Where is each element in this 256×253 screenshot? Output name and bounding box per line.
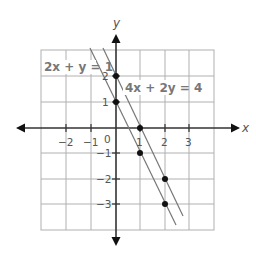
x-tick-label: 3 <box>185 136 192 148</box>
y-tick-label: 1 <box>102 96 109 108</box>
y-axis-up-arrow-icon <box>112 34 121 43</box>
x-axis-left-arrow-icon <box>16 124 25 133</box>
y-tick-label: −1 <box>96 147 111 159</box>
point-0-1 <box>113 99 119 105</box>
point-2-neg3 <box>162 201 168 207</box>
x-axis-right-arrow-icon <box>231 124 240 133</box>
point-1-0 <box>137 125 143 131</box>
y-tick-label: 2 <box>102 70 109 82</box>
y-tick-label: −3 <box>96 198 111 210</box>
x-tick-label: 2 <box>161 136 168 148</box>
y-axis-label: y <box>112 16 121 30</box>
point-0-2 <box>113 73 119 79</box>
origin-label: 0 <box>104 133 111 145</box>
y-tick-label: −2 <box>96 173 111 185</box>
graph-svg: 2x + y = 1 4x + 2y = 4 x y 0 −2 −1 1 2 3… <box>0 0 256 253</box>
point-2-neg2 <box>162 176 168 182</box>
coordinate-plane-figure: 2x + y = 1 4x + 2y = 4 x y 0 −2 −1 1 2 3… <box>0 0 256 253</box>
x-tick-label: 1 <box>136 136 143 148</box>
equation-label-line-2: 4x + 2y = 4 <box>125 81 202 95</box>
x-tick-label: −2 <box>58 136 73 148</box>
x-axis-label: x <box>241 121 250 135</box>
point-1-neg1 <box>137 150 143 156</box>
y-axis-down-arrow-icon <box>112 237 121 246</box>
